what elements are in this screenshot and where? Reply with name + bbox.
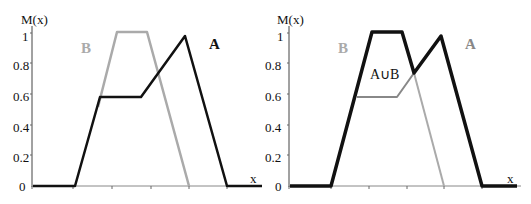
right-ytick-0.8: 0.8: [265, 58, 281, 73]
left-x-axis-title: x: [250, 171, 257, 186]
left-series-a: [33, 36, 262, 186]
right-ytick-1: 1: [277, 29, 284, 44]
left-label-b: B: [81, 40, 91, 56]
left-ytick-0.8: 0.8: [13, 58, 29, 73]
right-chart: M(x) 1 0.8 0.6 0.4 0.2 0 x B A A∪B: [265, 12, 521, 194]
left-label-a: A: [209, 36, 220, 52]
right-label-union: A∪B: [370, 67, 399, 82]
right-series-union: [290, 32, 517, 186]
right-label-a: A: [465, 36, 476, 52]
left-chart: M(x) 1 0.8 0.6 0.4 0.2 0 x B A: [13, 12, 262, 194]
left-ytick-0.6: 0.6: [13, 89, 30, 104]
right-label-b: B: [338, 40, 348, 56]
left-ytick-0.2: 0.2: [13, 150, 29, 165]
fuzzy-sets-figure: M(x) 1 0.8 0.6 0.4 0.2 0 x B A: [0, 0, 531, 204]
left-ytick-0: 0: [19, 179, 26, 194]
right-ytick-0.4: 0.4: [265, 120, 282, 135]
right-x-axis-title: x: [507, 171, 514, 186]
right-ytick-0.6: 0.6: [265, 89, 282, 104]
left-y-axis-title: M(x): [21, 12, 48, 27]
right-series-b-inner: [414, 73, 444, 186]
right-ytick-0: 0: [275, 179, 282, 194]
left-ytick-1: 1: [22, 29, 29, 44]
right-ytick-0.2: 0.2: [265, 150, 281, 165]
right-y-axis-title: M(x): [277, 12, 304, 27]
left-series-b: [98, 32, 189, 186]
left-ytick-0.4: 0.4: [13, 120, 30, 135]
